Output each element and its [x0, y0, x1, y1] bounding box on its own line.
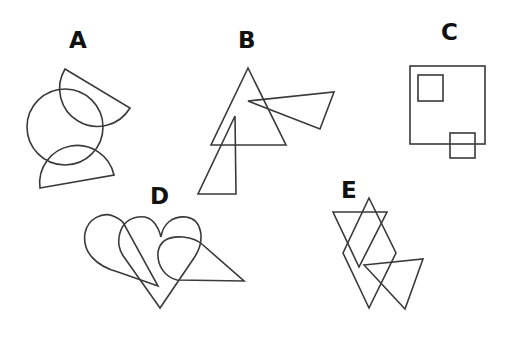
heart-shape — [158, 237, 244, 281]
figure-b — [198, 68, 334, 194]
figure-e — [333, 198, 423, 309]
figure-d — [85, 215, 244, 308]
figures-canvas — [0, 0, 512, 338]
semicircle-shape — [60, 69, 130, 126]
heart-shape — [85, 215, 158, 286]
circle-shape — [27, 89, 103, 165]
triangle-shape — [211, 68, 286, 145]
triangle-shape — [248, 92, 334, 129]
square-shape — [450, 133, 475, 158]
square-shape — [418, 75, 443, 101]
figure-a — [27, 69, 130, 188]
figure-c — [410, 66, 485, 158]
heart-shape — [119, 217, 201, 308]
triangle-shape — [333, 212, 387, 267]
semicircle-shape — [40, 145, 114, 188]
triangle-shape — [198, 116, 236, 194]
